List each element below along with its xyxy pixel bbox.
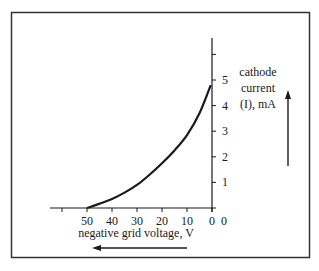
x-tick-label: 0 [209, 214, 215, 228]
y-tick-label: 1 [222, 175, 228, 189]
y-axis-title-line: (I), mA [240, 97, 276, 111]
origin-label: 0 [221, 214, 227, 228]
chart: 50403020100012345 negative grid voltage,… [0, 0, 319, 271]
y-tick-label: 4 [222, 99, 228, 113]
x-axis-title: negative grid voltage, V [78, 226, 194, 240]
y-axis-title-line: current [241, 81, 276, 95]
y-axis-title-line: cathode [239, 65, 276, 79]
axes: 50403020100012345 [50, 38, 228, 228]
left-arrow-icon [92, 245, 101, 251]
data-series [87, 85, 211, 208]
y-tick-label: 2 [222, 150, 228, 164]
up-arrow-icon [285, 90, 291, 99]
y-tick-label: 3 [222, 124, 228, 138]
y-tick-label: 5 [222, 73, 228, 87]
current-curve [87, 85, 211, 208]
